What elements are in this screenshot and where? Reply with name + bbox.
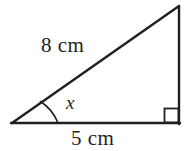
geometry-figure: 8 cm 5 cm x [0, 0, 187, 151]
base-length-label: 5 cm [71, 128, 114, 149]
angle-variable-label: x [66, 93, 74, 112]
hypotenuse-line [12, 6, 179, 123]
hypotenuse-length-label: 8 cm [41, 35, 84, 56]
right-angle-marker-icon [165, 109, 179, 123]
angle-arc-icon [41, 102, 59, 124]
